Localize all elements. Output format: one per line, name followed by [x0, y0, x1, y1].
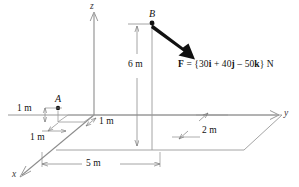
- dimension-5m: [42, 152, 160, 167]
- force-equals: = {: [184, 59, 199, 69]
- dimension-6m: [128, 24, 155, 146]
- point-a-label: A: [55, 94, 61, 104]
- force-vector-arrow: [151, 25, 195, 60]
- dimension-2m-label: 2 m: [202, 126, 217, 136]
- figure-canvas: z y x A B 6 m 5 m 2 m 1 m 1 m 1 m F = {3…: [0, 0, 299, 187]
- force-equation-label: F = {30i + 40j – 50k} N: [178, 60, 274, 70]
- dimension-1m-y-label: 1 m: [99, 117, 114, 127]
- x-axis: [20, 115, 94, 177]
- force-minus: –: [235, 59, 245, 69]
- ground-plane: [56, 115, 282, 150]
- dimension-1m-x: [42, 123, 68, 131]
- force-k-coeff: 50: [245, 59, 255, 69]
- x-axis-label: x: [12, 170, 16, 180]
- point-b-label: B: [149, 9, 155, 19]
- dimension-1m-height-label: 1 m: [17, 104, 32, 114]
- dimension-1m-x-label: 1 m: [30, 133, 45, 143]
- force-i-coeff: 30: [199, 59, 209, 69]
- point-b-group: [150, 21, 155, 26]
- y-axis-label: y: [284, 109, 288, 119]
- dimension-6m-label: 6 m: [128, 60, 143, 70]
- force-j-coeff: 40: [222, 59, 232, 69]
- statics-diagram-svg: [0, 0, 299, 187]
- force-close: } N: [260, 59, 274, 69]
- dimension-2m: [172, 113, 228, 139]
- force-plus: +: [211, 59, 221, 69]
- y-axis: [8, 111, 279, 120]
- z-axis-label: z: [90, 2, 94, 12]
- dimension-5m-label: 5 m: [86, 159, 101, 169]
- z-axis: [90, 12, 98, 115]
